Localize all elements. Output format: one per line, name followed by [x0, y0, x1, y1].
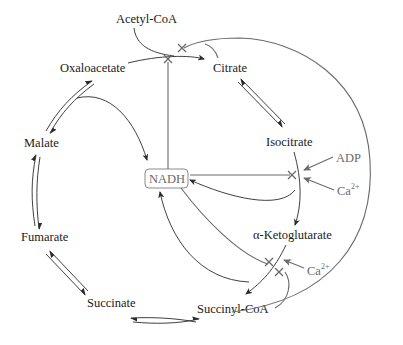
arrow-malate-oxidation-nadh [77, 97, 147, 160]
label-isocitrate: Isocitrate [266, 135, 313, 149]
label-succinyl-coa: Succinyl-CoA [197, 302, 269, 316]
arrow-succinate-to-succinylcoa [133, 319, 199, 323]
label-oxaloacetate: Oxaloacetate [60, 61, 126, 75]
arrow-isocitrate-nadh [190, 180, 295, 200]
label-succinate: Succinate [87, 296, 136, 310]
tca-cycle-diagram: Acetyl-CoA Oxaloacetate Citrate Isocitra… [0, 0, 403, 345]
arrow-oxaloacetate-to-malate [50, 84, 94, 133]
ca-base-text: Ca [307, 264, 321, 278]
label-acetyl-coa: Acetyl-CoA [116, 12, 177, 26]
label-citrate: Citrate [213, 61, 247, 75]
arrow-citrate-to-isocitrate [238, 82, 282, 127]
arrow-akg-to-succinylcoa [246, 245, 286, 294]
ca-charge-text: 2+ [351, 182, 360, 191]
activate-ca-akgdh [284, 260, 304, 268]
arrow-fumarate-to-succinate [46, 254, 85, 295]
activate-adp-idh [304, 157, 333, 170]
arrow-isocitrate-to-akg [294, 152, 300, 225]
inhibit-mark-akgdh-succinylcoa [275, 268, 283, 276]
ca-base-text: Ca [337, 184, 351, 198]
arrow-acetylcoa-in [134, 28, 174, 56]
arrow-fumarate-to-malate [32, 155, 36, 226]
label-fumarate: Fumarate [21, 230, 69, 244]
label-ca-isocitrate: Ca2+ [337, 182, 360, 198]
arrow-isocitrate-to-citrate [241, 79, 285, 124]
label-ca-ketoglutarate: Ca2+ [307, 262, 330, 278]
arrow-malate-to-fumarate [37, 157, 40, 229]
arrow-succinate-to-fumarate [50, 251, 88, 291]
ca-charge-text: 2+ [321, 262, 330, 271]
inhibit-mark-citrate-synthase [164, 55, 172, 63]
activate-ca-idh [304, 178, 334, 190]
label-adp: ADP [336, 151, 361, 165]
label-nadh: NADH [149, 172, 185, 186]
citrate-feedback-stub [205, 44, 218, 58]
label-alpha-ketoglutarate: α-Ketoglutarate [253, 228, 332, 242]
arrow-akg-nadh [160, 192, 249, 282]
inhibit-mark-akgdh-nadh [265, 258, 273, 266]
label-malate: Malate [24, 136, 59, 150]
